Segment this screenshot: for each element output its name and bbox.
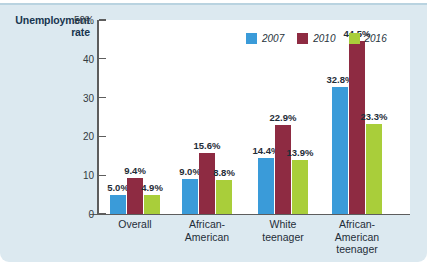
chart-legend: 200720102016 xyxy=(246,33,387,44)
bar-value-label: 15.6% xyxy=(194,140,221,151)
y-axis-tick-label: 0 xyxy=(50,209,94,220)
bar-value-label: 9.0% xyxy=(179,166,201,177)
bars-layer: 5.0%9.4%4.9%9.0%15.6%8.8%14.4%22.9%13.9%… xyxy=(98,20,410,214)
bar-group: 9.0%15.6%8.8% xyxy=(182,20,232,214)
y-axis-tick-label: 20 xyxy=(50,131,94,142)
figure-panel: Unemployment rate 50%403020100 5.0%9.4%4… xyxy=(0,3,427,262)
bar[interactable]: 15.6% xyxy=(199,153,215,214)
x-axis-category-label-line: teenager xyxy=(311,243,403,256)
legend-label: 2010 xyxy=(313,33,335,44)
legend-label: 2016 xyxy=(365,33,387,44)
bar[interactable]: 14.4% xyxy=(258,158,274,214)
bar-group: 32.8%44.5%23.3% xyxy=(332,20,382,214)
legend-item[interactable]: 2007 xyxy=(246,33,284,44)
bar-value-label: 8.8% xyxy=(213,167,235,178)
legend-swatch xyxy=(246,33,257,44)
y-axis-tick-label: 40 xyxy=(50,53,94,64)
bar-value-label: 4.9% xyxy=(141,182,163,193)
bar-value-label: 9.4% xyxy=(124,165,146,176)
legend-label: 2007 xyxy=(262,33,284,44)
legend-item[interactable]: 2016 xyxy=(349,33,387,44)
x-axis-category-label: African-Americanteenager xyxy=(311,218,403,256)
bar[interactable]: 23.3% xyxy=(366,124,382,214)
x-axis-category-label-line: American xyxy=(311,231,403,244)
y-axis-tick-label: 50% xyxy=(50,15,94,26)
bar[interactable]: 4.9% xyxy=(144,195,160,214)
bar[interactable]: 32.8% xyxy=(332,87,348,214)
bar-value-label: 23.3% xyxy=(361,111,388,122)
bar[interactable]: 13.9% xyxy=(292,160,308,214)
bar[interactable]: 22.9% xyxy=(275,125,291,214)
y-axis-tick-label: 30 xyxy=(50,92,94,103)
bar-value-label: 5.0% xyxy=(107,182,129,193)
legend-swatch xyxy=(297,33,308,44)
legend-swatch xyxy=(349,33,360,44)
bar-value-label: 22.9% xyxy=(270,112,297,123)
bar-group: 5.0%9.4%4.9% xyxy=(110,20,160,214)
bar-value-label: 13.9% xyxy=(287,147,314,158)
bar[interactable]: 44.5% xyxy=(349,41,365,214)
bar[interactable]: 8.8% xyxy=(216,180,232,214)
x-axis-category-label-line: African- xyxy=(311,218,403,231)
legend-item[interactable]: 2010 xyxy=(297,33,335,44)
bar[interactable]: 5.0% xyxy=(110,195,126,214)
bar-group: 14.4%22.9%13.9% xyxy=(258,20,308,214)
y-axis-title-line2: rate xyxy=(4,26,90,38)
bar[interactable]: 9.0% xyxy=(182,179,198,214)
y-axis-tick-label: 10 xyxy=(50,170,94,181)
